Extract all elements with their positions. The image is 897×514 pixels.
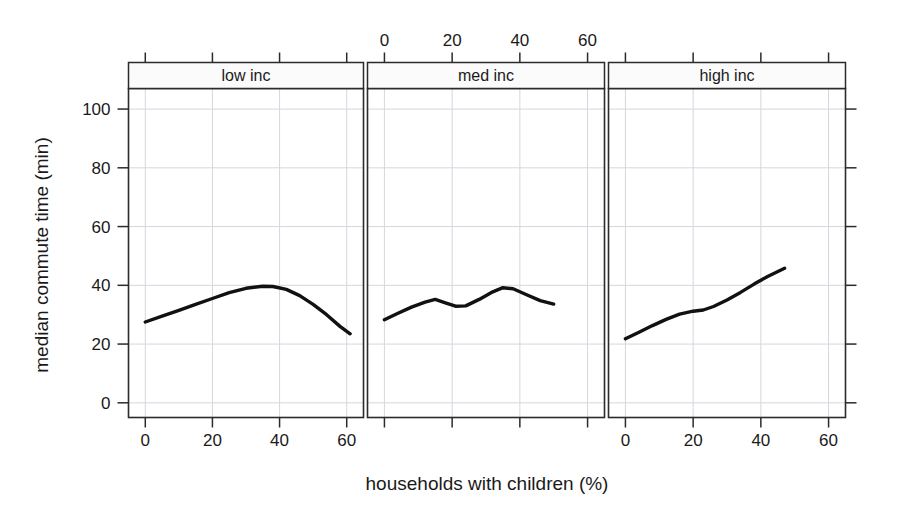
strip-label-med-inc: med inc (458, 67, 514, 84)
x-tick-label-bottom: 60 (819, 431, 838, 450)
x-tick-label-top: 0 (380, 31, 389, 50)
x-tick-label-bottom: 0 (621, 431, 630, 450)
y-tick-label: 60 (92, 218, 111, 237)
x-tick-label-bottom: 40 (751, 431, 770, 450)
x-tick-label-bottom: 20 (203, 431, 222, 450)
panel-strip-headers: low incmed inchigh inc (129, 63, 846, 89)
x-tick-label-top: 40 (510, 31, 529, 50)
y-tick-label: 40 (92, 276, 111, 295)
y-tick-label: 80 (92, 159, 111, 178)
y-axis-title: median commute time (min) (31, 137, 52, 372)
figure-container: median commute time (min) households wit… (0, 0, 897, 514)
x-tick-label-top: 20 (443, 31, 462, 50)
x-tick-label-bottom: 20 (684, 431, 703, 450)
strip-label-low-inc: low inc (222, 67, 271, 84)
y-tick-label: 20 (92, 335, 111, 354)
x-axis-title: households with children (%) (366, 473, 609, 494)
y-tick-label: 0 (101, 394, 110, 413)
trellis-scatter-plot: median commute time (min) households wit… (0, 0, 897, 514)
y-tick-label: 100 (82, 100, 110, 119)
strip-label-high-inc: high inc (699, 67, 754, 84)
x-tick-label-bottom: 60 (337, 431, 356, 450)
x-tick-label-top: 60 (578, 31, 597, 50)
x-tick-label-bottom: 0 (141, 431, 150, 450)
x-tick-label-bottom: 40 (270, 431, 289, 450)
